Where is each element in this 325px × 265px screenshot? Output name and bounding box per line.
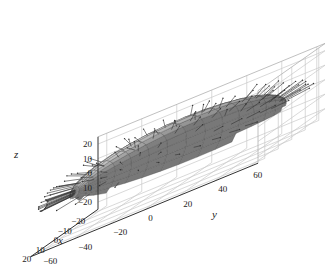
x-tick-label: 10 xyxy=(36,245,46,255)
y-tick-label: 60 xyxy=(253,170,263,180)
x-tick-label: −20 xyxy=(71,216,86,226)
y-axis-label: y xyxy=(211,208,217,220)
y-tick-label: −20 xyxy=(113,227,128,237)
z-tick-label: 10 xyxy=(83,183,93,193)
y-tick-label: 0 xyxy=(148,213,153,223)
z-tick-label: 10 xyxy=(83,154,93,164)
z-tick-label: 0 xyxy=(88,168,93,178)
z-tick-label: −20 xyxy=(78,197,93,207)
y-tick-label: −60 xyxy=(43,256,58,265)
ellipsoid-3d-plot: 2010010−20−20−1001020−60−40−200204060 z … xyxy=(0,0,325,265)
z-axis-label: z xyxy=(13,148,19,160)
y-tick-label: 20 xyxy=(183,199,193,209)
y-tick-label: −40 xyxy=(78,242,93,252)
x-tick-label: 20 xyxy=(22,254,32,264)
y-tick-label: 40 xyxy=(218,184,228,194)
x-axis-label: x xyxy=(57,234,63,246)
z-tick-label: 20 xyxy=(83,139,93,149)
